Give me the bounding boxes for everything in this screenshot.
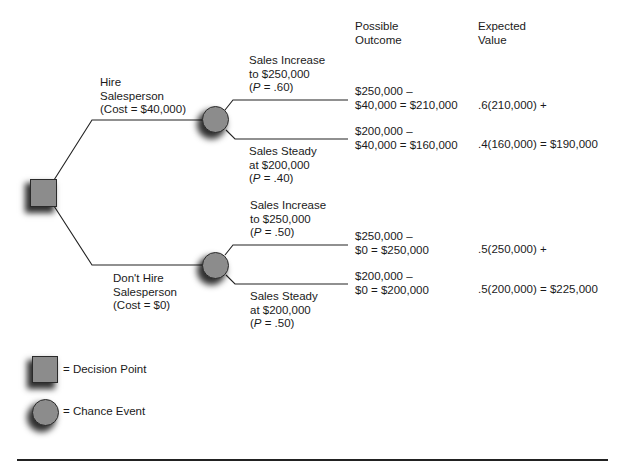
nohire-steady-outcome: $200,000 – $0 = $200,000	[355, 270, 429, 297]
legend-decision-point-icon	[32, 356, 58, 383]
header-expected-value: Expected Value	[478, 20, 526, 47]
hire-steady-event-label: Sales Steady at $200,000 (P = .40)	[249, 145, 317, 186]
chance-event-circle-hire	[202, 106, 229, 133]
chance-event-circle-no-hire	[202, 252, 229, 279]
hire-steady-outcome: $200,000 – $40,000 = $160,000	[355, 125, 458, 152]
branch-hire-steady	[226, 130, 348, 139]
nohire-steady-event-label: Sales Steady at $200,000 (P = .50)	[250, 290, 318, 331]
decision-point-square	[30, 179, 57, 207]
header-possible-outcome: Possible Outcome	[355, 20, 402, 47]
probability: (P = .40)	[249, 172, 317, 186]
nohire-increase-event-label: Sales Increase to $250,000 (P = .50)	[250, 199, 326, 240]
probability: (P = .50)	[250, 226, 326, 240]
probability: (P = .50)	[250, 317, 318, 331]
hire-increase-expected-value: .6(210,000) +	[478, 99, 547, 113]
legend-chance-event-icon	[32, 399, 59, 426]
dont-hire-salesperson-label: Don't Hire Salesperson (Cost = $0)	[113, 272, 177, 313]
legend-chance-event-label: = Chance Event	[63, 405, 145, 419]
branch-nohire-increase	[225, 245, 348, 255]
hire-increase-event-label: Sales Increase to $250,000 (P = .60)	[249, 54, 325, 95]
hire-increase-outcome: $250,000 – $40,000 = $210,000	[355, 85, 458, 112]
hire-salesperson-label: Hire Salesperson (Cost = $40,000)	[100, 76, 186, 117]
nohire-steady-expected-value: .5(200,000) = $225,000	[478, 283, 598, 297]
hire-steady-expected-value: .4(160,000) = $190,000	[478, 138, 598, 152]
branch-nohire-steady	[226, 275, 348, 284]
branch-hire	[54, 120, 203, 180]
nohire-increase-outcome: $250,000 – $0 = $250,000	[355, 230, 429, 257]
legend-decision-point-label: = Decision Point	[63, 363, 146, 377]
branch-no-hire	[54, 206, 203, 265]
probability: (P = .60)	[249, 81, 325, 95]
nohire-increase-expected-value: .5(250,000) +	[478, 243, 547, 257]
branch-hire-increase	[225, 100, 348, 110]
decision-tree-diagram: Possible Outcome Expected Value Hire Sal…	[0, 0, 620, 464]
